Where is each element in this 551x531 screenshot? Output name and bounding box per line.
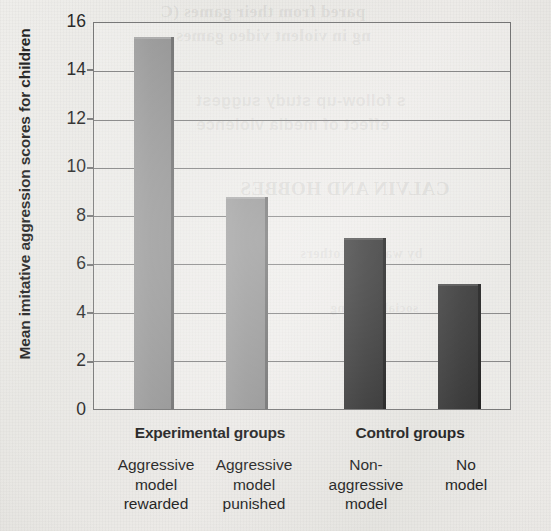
bar-face [438,284,481,409]
bar-chart: Mean imitative aggression scores for chi… [0,0,551,531]
category-line-2: model [208,475,300,495]
bar-right-edge [171,37,174,409]
bar-face [226,197,268,409]
category-label-aggressive-model-rewarded: Aggressive model rewarded [110,455,202,514]
category-line-1: Aggressive [110,455,202,475]
y-tick-12: 12 [48,108,86,129]
bar-right-edge [383,238,386,409]
category-label-non-aggressive-model: Non- aggressive model [320,455,412,514]
bar-right-edge [478,284,481,409]
group-header-experimental: Experimental groups [115,424,305,442]
category-label-aggressive-model-punished: Aggressive model punished [208,455,300,514]
category-line-3: model [320,494,412,514]
plot-area [93,22,511,410]
bar-face [344,238,386,409]
category-line-1: No [420,455,512,475]
bar-right-edge [265,197,268,409]
y-tick-10: 10 [48,156,86,177]
y-tick-16: 16 [48,11,86,32]
category-line-3: rewarded [110,494,202,514]
category-line-1: Non- [320,455,412,475]
category-line-2: aggressive [320,475,412,495]
bar-top-edge [438,284,481,286]
bar-aggressive-model-rewarded[interactable] [134,37,174,409]
category-line-2: model [110,475,202,495]
bar-aggressive-model-punished[interactable] [226,197,268,409]
bar-no-model[interactable] [438,284,481,409]
category-line-1: Aggressive [208,455,300,475]
category-line-3: punished [208,494,300,514]
bar-top-edge [226,197,268,199]
y-tick-4: 4 [48,302,86,323]
y-tick-2: 2 [48,350,86,371]
y-tick-8: 8 [48,205,86,226]
bar-face [134,37,174,409]
category-label-no-model: No model [420,455,512,494]
category-line-2: model [420,475,512,495]
bar-top-edge [134,37,174,39]
y-tick-6: 6 [48,253,86,274]
bar-top-edge [344,238,386,240]
group-header-control: Control groups [330,424,490,442]
bar-non-aggressive-model[interactable] [344,238,386,409]
y-tick-0: 0 [48,399,86,420]
y-tick-14: 14 [48,59,86,80]
